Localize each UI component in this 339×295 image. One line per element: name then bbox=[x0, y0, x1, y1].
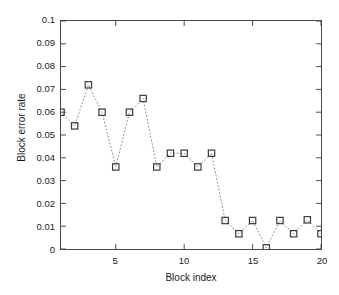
chart-figure: 00.010.020.030.040.050.060.070.080.090.1… bbox=[0, 0, 339, 295]
x-tick-label: 10 bbox=[179, 255, 190, 266]
x-axis-tick-labels: 5101520 bbox=[0, 0, 339, 295]
x-tick-label: 20 bbox=[317, 255, 328, 266]
x-tick-label: 5 bbox=[113, 255, 118, 266]
x-tick-label: 15 bbox=[248, 255, 259, 266]
x-axis-label: Block index bbox=[60, 272, 322, 283]
y-axis-label: Block error rate bbox=[16, 63, 27, 193]
